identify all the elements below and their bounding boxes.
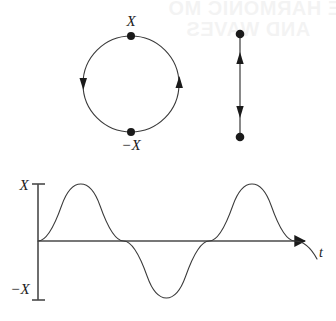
figure-container: SIMPLE HARMONIC MO AND WAVES X −X: [0, 0, 336, 321]
oscillator-bottom-point: [236, 133, 245, 142]
circle-bottom-label: −X: [121, 137, 141, 153]
graph-y-axis-bottom-label: −X: [10, 281, 30, 297]
circle-left-arrowhead-down: [80, 78, 88, 90]
circle-top-point: [127, 32, 135, 40]
circle-bottom-point: [127, 128, 135, 136]
figure-svg: X −X X −X t: [0, 0, 336, 321]
circle-right-arrowhead-up: [176, 76, 183, 88]
graph-y-axis-top-label: X: [18, 177, 29, 193]
oscillator-top-point: [236, 30, 245, 39]
circular-motion-diagram: X −X: [80, 13, 183, 153]
oscillator-arrowhead-down: [236, 106, 243, 118]
oscillator-arrowhead-up: [236, 52, 243, 64]
circle-top-label: X: [125, 13, 136, 29]
sine-wave-graph: X −X t: [10, 177, 324, 300]
vertical-oscillator-diagram: [236, 30, 245, 142]
motion-circle: [83, 36, 179, 132]
graph-x-axis-label: t: [319, 245, 324, 260]
